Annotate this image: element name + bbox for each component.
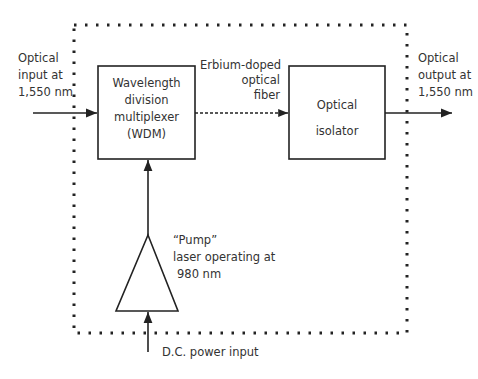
isolator-label: Optical isolator <box>289 92 385 144</box>
wdm-label: Wavelength division multiplexer (WDM) <box>98 75 195 143</box>
pump-label: “Pump” laser operating at 980 nm <box>173 232 275 283</box>
power-label: D.C. power input <box>162 344 259 361</box>
input-label: Optical input at 1,550 nm <box>18 50 73 101</box>
fiber-label: Erbium-doped optical fiber <box>200 58 280 103</box>
pump-laser-triangle <box>116 235 178 311</box>
output-label: Optical output at 1,550 nm <box>418 50 473 101</box>
